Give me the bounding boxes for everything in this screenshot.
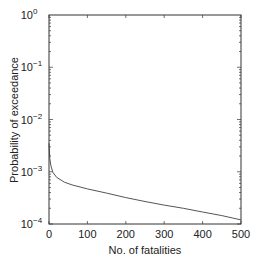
plot-frame [49, 15, 241, 224]
exceedance-chart: 10010−110−210−310−4 0100200300400500 No.… [0, 0, 258, 261]
y-axis-ticks [49, 17, 241, 224]
y-tick-labels: 10010−110−210−310−4 [21, 7, 43, 230]
y-tick-exponent: 0 [33, 7, 38, 16]
x-tick-label: 300 [155, 228, 173, 240]
x-tick-label: 400 [193, 228, 211, 240]
x-axis-label: No. of fatalities [109, 244, 182, 256]
y-tick-exponent: −1 [33, 59, 43, 68]
series-line-exceedance [49, 143, 241, 220]
y-tick-exponent: −4 [33, 216, 43, 225]
x-tick-label: 100 [78, 228, 96, 240]
y-tick-exponent: −2 [33, 112, 43, 121]
x-tick-label: 0 [46, 228, 52, 240]
y-tick-label: 10 [21, 61, 33, 73]
x-tick-label: 500 [232, 228, 250, 240]
y-axis-label: Probability of exceedance [8, 57, 20, 183]
x-tick-labels: 0100200300400500 [46, 228, 250, 240]
y-tick-label: 10 [21, 9, 33, 21]
x-tick-label: 200 [117, 228, 135, 240]
y-tick-label: 10 [21, 218, 33, 230]
y-tick-exponent: −3 [33, 164, 43, 173]
y-tick-label: 10 [21, 114, 33, 126]
x-axis-ticks [49, 15, 241, 224]
y-tick-label: 10 [21, 166, 33, 178]
